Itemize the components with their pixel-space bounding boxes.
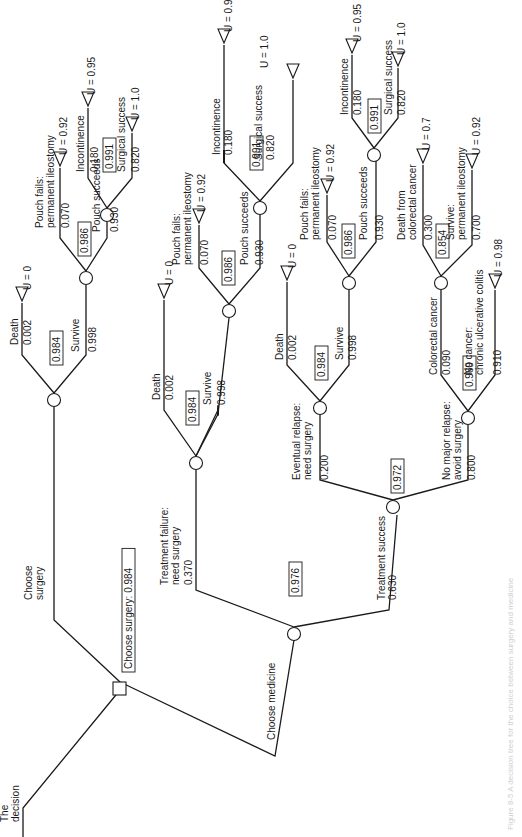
utility: U = 1.0	[130, 87, 141, 120]
ev-s-survive: 0.986	[79, 228, 90, 253]
labels-layer: ThedecisionChoose surgery: 0.984Choosesu…	[0, 0, 504, 822]
utility: U = 0.92	[196, 173, 207, 212]
choice-label-surgery: Choose	[23, 565, 34, 600]
chance-m-rel	[314, 402, 327, 415]
probability: 0.820	[396, 90, 407, 115]
best-choice-label: Choose surgery: 0.984	[123, 567, 134, 669]
terminal-m-cc-survive	[466, 154, 478, 168]
outcome-label: permanent ileostomy	[182, 172, 193, 265]
outcome-label: Pouch fails:	[171, 213, 182, 265]
outcome-label: Death from	[396, 191, 407, 240]
outcome-label: Survive:	[445, 204, 456, 240]
probability: 0.998	[216, 380, 227, 405]
outcome-label: Treatment failure:	[159, 507, 170, 585]
probability: 0.800	[466, 455, 477, 480]
utility: U = 0.92	[325, 143, 336, 182]
outcome-label: need surgery	[170, 527, 181, 585]
probability: 0.180	[352, 90, 363, 115]
outcome-label: colorectal cancer	[407, 164, 418, 240]
chance-m-tf-survive	[223, 305, 236, 318]
ev-s-psucc: 0.991	[104, 144, 115, 169]
outcome-label: Pouch fails:	[34, 176, 45, 228]
outcome-label: need surgery	[302, 422, 313, 480]
probability: 0.070	[199, 240, 210, 265]
outcome-label: No major relapse:	[441, 401, 452, 480]
chance-m-rel-psucc	[368, 149, 381, 162]
root-label: decision	[10, 785, 21, 822]
probability: 0.002	[164, 375, 175, 400]
outcome-label: Surgical success	[116, 97, 127, 172]
outcome-label: Death	[151, 373, 162, 400]
terminal-m-cc-death	[417, 149, 429, 163]
probability: 0.300	[423, 215, 434, 240]
utility: U = 1.0	[259, 35, 270, 68]
utility: U = 0.92	[471, 116, 482, 155]
chance-m-rel-survive	[343, 277, 356, 290]
outcome-label: Colorectal cancer	[428, 297, 439, 375]
ev-m-rel: 0.984	[316, 352, 327, 377]
outcome-label: Survive	[70, 318, 81, 352]
probability: 0.200	[319, 455, 330, 480]
outcome-label: Death	[9, 318, 20, 345]
edge-s-death	[22, 303, 54, 393]
utility: U = 1.0	[396, 22, 407, 55]
probability: 0.930	[109, 207, 120, 232]
outcome-label: No cancer:	[463, 327, 474, 375]
chance-m-ts	[387, 501, 400, 514]
probability: 0.070	[60, 203, 71, 228]
ev-surgery: 0.984	[51, 337, 62, 362]
probability: 0.998	[87, 327, 98, 352]
probability: 0.820	[130, 147, 141, 172]
ev-medicine: 0.976	[290, 568, 301, 593]
chance-m-tf	[190, 457, 203, 470]
outcome-label: Treatment success	[376, 516, 387, 600]
figure-caption: Figure 8-5 A decision tree for the choic…	[506, 577, 515, 830]
outcome-label: Pouch succeeds	[358, 167, 369, 240]
outcome-label: avoid surgery	[452, 420, 463, 480]
utility: U = 0.7	[421, 117, 432, 150]
outcome-label: Surgical success	[253, 85, 264, 160]
root-label: The	[0, 804, 10, 822]
outcome-label: permanent ileostomy	[45, 135, 56, 228]
probability: 0.910	[492, 350, 503, 375]
ev-m-rel-survive: 0.986	[343, 230, 354, 255]
outcome-label: Survive	[334, 326, 345, 360]
probability: 0.630	[387, 575, 398, 600]
ev-m-tf: 0.984	[187, 397, 198, 422]
utility: U = 0.98	[493, 238, 504, 277]
outcome-label: chronic ulcerative colitis	[474, 269, 485, 375]
outcome-label: Incontinence	[339, 58, 350, 115]
outcome-label: Pouch fails:	[299, 188, 310, 240]
probability: 0.998	[347, 335, 358, 360]
decision-tree: ThedecisionChoose surgery: 0.984Choosesu…	[0, 0, 522, 837]
outcome-label: permanent ileostomy	[310, 147, 321, 240]
outcome-label: Incontinence	[211, 98, 222, 155]
utility: U = 0.95	[86, 56, 97, 95]
probability: 0.930	[374, 215, 385, 240]
decision-node	[113, 682, 126, 695]
outcome-label: Death	[274, 333, 285, 360]
choice-label-medicine: Choose medicine	[266, 662, 277, 740]
probability: 0.180	[89, 147, 100, 172]
ev-m-rel-psucc: 0.991	[369, 105, 380, 130]
edge-choose-surgery	[54, 407, 120, 682]
probability: 0.070	[327, 215, 338, 240]
outcome-label: Eventual relapse:	[291, 403, 302, 480]
terminal-m-tf-death	[158, 284, 170, 298]
probability: 0.002	[287, 335, 298, 360]
utility: U = 0.95	[352, 3, 363, 42]
utility: U = 0	[287, 243, 298, 268]
chance-m-cc	[435, 277, 448, 290]
probability: 0.180	[223, 130, 234, 155]
probability: 0.002	[22, 320, 33, 345]
root-stub	[23, 690, 120, 837]
ev-m-tf-survive: 0.986	[223, 257, 234, 282]
edge-m-tf	[196, 470, 294, 627]
utility: U = 0.95	[223, 0, 234, 32]
outcome-label: permanent ileostomy	[456, 147, 467, 240]
outcome-label: Surgical success	[383, 40, 394, 115]
utility: U = 0	[22, 265, 33, 290]
probability: 0.930	[254, 240, 265, 265]
probability: 0.700	[471, 215, 482, 240]
utility: U = 0.92	[58, 116, 69, 155]
